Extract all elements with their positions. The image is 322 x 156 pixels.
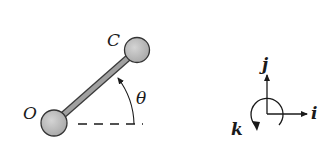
label-i: i [311, 103, 317, 123]
k-rotation-arrowhead [252, 121, 260, 131]
label-o: O [23, 103, 37, 123]
label-c: C [107, 30, 120, 50]
diagram-canvas: O C θ j i k [0, 0, 322, 156]
rod-oc [54, 50, 137, 123]
label-j: j [259, 54, 269, 74]
label-k: k [231, 119, 243, 139]
axes-triad [251, 75, 307, 131]
label-theta: θ [136, 88, 146, 108]
theta-arc-arrow [118, 78, 134, 124]
sphere-c [125, 38, 150, 63]
sphere-o [41, 110, 67, 136]
rod-body [54, 50, 137, 123]
